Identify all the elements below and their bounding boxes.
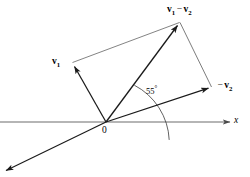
edge-parallel-to-neg-v2 [73,23,180,63]
degree-icon: ° [155,84,158,92]
label-v1-minus-v2-operator: − [175,4,183,14]
label-angle-55: 55° [146,85,157,95]
neg-v2-extension-segment [6,122,106,171]
label-v1: v1 [52,57,60,69]
label-neg-v2: −v2 [216,81,233,93]
edge-parallel-to-v1 [180,23,212,88]
vector-diagram-figure: v1 v1−v2 −v2 0 55° x [0,0,250,177]
label-v1-minus-v2: v1−v2 [167,5,192,17]
neg-v2-extension-line [6,122,106,171]
vector-v1 [75,67,107,123]
vector-v1-line [75,67,107,123]
vector-v1-minus-v2 [106,26,178,123]
label-v1-subscript: 1 [57,61,60,68]
label-v1-minus-v2-sub2: 2 [188,9,191,16]
diagram-canvas [0,0,250,177]
label-origin: 0 [102,126,107,136]
label-neg-v2-subscript: 2 [229,85,232,92]
vector-v1-minus-v2-line [106,26,178,123]
angle-value: 55 [146,86,155,96]
label-x-axis: x [234,116,238,126]
parallelogram-construction-edges [73,23,212,88]
